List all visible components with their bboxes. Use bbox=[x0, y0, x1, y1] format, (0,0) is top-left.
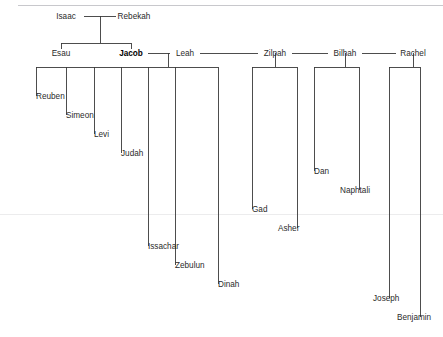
person-label-naphtali: Naphtali bbox=[340, 186, 370, 195]
person-label-gad: Gad bbox=[252, 205, 268, 214]
person-label-asher: Asher bbox=[278, 224, 300, 233]
person-label-dinah: Dinah bbox=[218, 280, 240, 289]
edges-layer bbox=[36, 16, 420, 317]
tree-canvas: IsaacRebekahEsauJacobLeahZilpahBilhahRac… bbox=[0, 0, 443, 337]
person-label-dan: Dan bbox=[314, 167, 329, 176]
labels-layer: IsaacRebekahEsauJacobLeahZilpahBilhahRac… bbox=[36, 12, 432, 322]
person-label-benjamin: Benjamin bbox=[397, 313, 432, 322]
person-label-rachel: Rachel bbox=[400, 49, 426, 58]
person-label-zilpah: Zilpah bbox=[264, 49, 287, 58]
person-label-levi: Levi bbox=[94, 130, 109, 139]
person-label-leah: Leah bbox=[176, 49, 195, 58]
family-tree-diagram: IsaacRebekahEsauJacobLeahZilpahBilhahRac… bbox=[0, 0, 443, 337]
person-label-jacob: Jacob bbox=[119, 49, 143, 58]
person-label-reuben: Reuben bbox=[36, 92, 65, 101]
person-label-simeon: Simeon bbox=[66, 111, 94, 120]
person-label-bilhah: Bilhah bbox=[334, 49, 357, 58]
person-label-rebekah: Rebekah bbox=[118, 12, 151, 21]
person-label-issachar: Issachar bbox=[148, 242, 179, 251]
person-label-joseph: Joseph bbox=[373, 294, 400, 303]
person-label-esau: Esau bbox=[52, 49, 71, 58]
person-label-isaac: Isaac bbox=[56, 12, 76, 21]
person-label-zebulun: Zebulun bbox=[175, 261, 205, 270]
person-label-judah: Judah bbox=[121, 149, 144, 158]
